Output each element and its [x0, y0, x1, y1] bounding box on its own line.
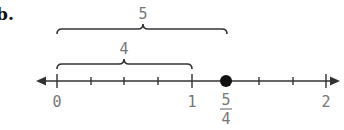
point-marker [220, 75, 232, 87]
tick-label-0: 0 [52, 93, 61, 111]
axis [36, 77, 340, 86]
brace-five: 5 [57, 5, 227, 34]
tick-label-1: 1 [187, 93, 196, 111]
left-arrow-icon [36, 77, 46, 86]
brace-four-label: 4 [119, 40, 128, 58]
brace-five-label: 5 [138, 5, 147, 23]
right-arrow-icon [330, 77, 340, 86]
brace-four: 4 [57, 40, 192, 69]
tick-label-2: 2 [321, 93, 330, 111]
fraction-numerator: 5 [221, 91, 230, 109]
number-line-diagram: 5 4 0 1 2 5 4 [0, 0, 344, 130]
fraction-denominator: 4 [221, 110, 230, 128]
point-fraction-label: 5 4 [220, 91, 232, 128]
